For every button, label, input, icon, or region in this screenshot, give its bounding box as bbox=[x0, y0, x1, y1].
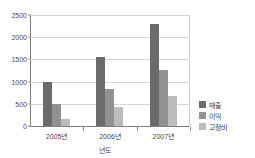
bar-group bbox=[137, 15, 190, 126]
x-axis-category-label: 2005년 bbox=[46, 131, 68, 141]
legend-item[interactable]: 이익 bbox=[199, 110, 253, 121]
bar-group bbox=[83, 15, 136, 126]
x-tick-mark bbox=[137, 127, 138, 131]
x-tick-mark bbox=[83, 127, 84, 131]
bar bbox=[114, 107, 123, 126]
legend-swatch bbox=[199, 101, 206, 108]
y-tick-label: 1500 bbox=[11, 56, 27, 63]
x-axis-category-label: 2007년 bbox=[153, 131, 175, 141]
y-tick-label: 500 bbox=[15, 100, 27, 107]
bar bbox=[61, 119, 70, 126]
y-tick-label: 0 bbox=[23, 123, 27, 130]
y-tick-label: 2000 bbox=[11, 34, 27, 41]
bar bbox=[105, 89, 114, 126]
bar bbox=[150, 24, 159, 126]
cropped-chart-title bbox=[6, 0, 76, 4]
bar-chart: 05001000150020002500 2005년2006년2007년 년도 … bbox=[0, 0, 255, 158]
legend-label: 고정비 bbox=[209, 122, 227, 132]
y-tick-label: 2500 bbox=[11, 12, 27, 19]
x-tick-mark bbox=[190, 127, 191, 131]
bar bbox=[43, 82, 52, 126]
y-tick-label: 1000 bbox=[11, 78, 27, 85]
bar bbox=[159, 70, 168, 126]
bar bbox=[52, 104, 61, 126]
legend-swatch bbox=[199, 112, 206, 119]
legend-label: 매출 bbox=[209, 100, 221, 110]
x-axis-title: 년도 bbox=[99, 145, 111, 155]
x-axis-line bbox=[30, 126, 190, 127]
bar bbox=[96, 57, 105, 126]
plot-area: 05001000150020002500 bbox=[30, 15, 190, 127]
legend-item[interactable]: 고정비 bbox=[199, 121, 253, 132]
x-axis-category-label: 2006년 bbox=[99, 131, 121, 141]
bar bbox=[168, 96, 177, 126]
legend-item[interactable]: 매출 bbox=[199, 99, 253, 110]
legend: 매출이익고정비 bbox=[199, 99, 253, 132]
legend-label: 이익 bbox=[209, 111, 221, 121]
legend-swatch bbox=[199, 123, 206, 130]
bar-group bbox=[30, 15, 83, 126]
